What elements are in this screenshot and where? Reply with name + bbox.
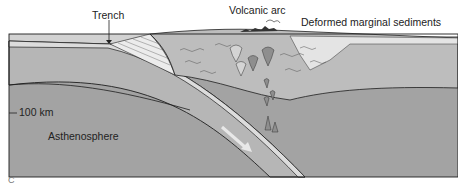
trench-label: Trench [92,10,124,21]
figure-letter: C [8,176,15,185]
eruption-plume-icon [266,20,280,23]
volcanic-arc-label: Volcanic arc [229,5,286,16]
depth-marker-label: 100 km [19,107,53,118]
deformed-sediments-label: Deformed marginal sediments [301,17,441,28]
asthenosphere-label: Asthenosphere [48,131,119,142]
